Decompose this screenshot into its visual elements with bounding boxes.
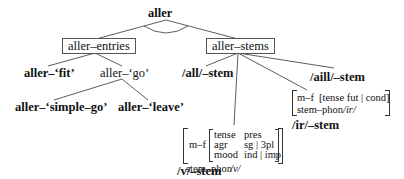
inner-avm: tensepres agrsg | 3pl moodind | imp: [209, 129, 279, 162]
aller-go-node: aller–‘go’: [100, 66, 149, 80]
aller-stems-node: aller–stems: [206, 38, 275, 54]
mf-attr: m–f: [189, 139, 206, 150]
all-stem-node: /all/–stem: [182, 66, 233, 80]
inner-row: moodind | imp: [214, 149, 281, 160]
root-node: aller: [148, 6, 172, 20]
left-bracket: [183, 128, 188, 164]
aller-entries-node: aller–entries: [62, 38, 136, 54]
v-stem-avm: m–f tensepres agrsg | 3pl moodind | imp …: [183, 128, 283, 164]
v-stem-node: /v/–stem: [177, 164, 221, 178]
ir-stem-avm: m–f[tense fut | cond] stem–phon/ir/: [292, 90, 390, 116]
aller-fit-node: aller–‘fit’: [24, 66, 75, 80]
aller-leave-node: aller–‘leave’: [118, 100, 184, 114]
phon-row: stem–phon/ir/: [297, 104, 356, 115]
aller-simple-go-node: aller–‘simple–go’: [15, 100, 107, 114]
ir-stem-node: /ir/–stem: [292, 118, 339, 132]
mf-row: m–f[tense fut | cond]: [297, 92, 390, 103]
aill-stem-node: /aill/–stem: [310, 70, 365, 84]
